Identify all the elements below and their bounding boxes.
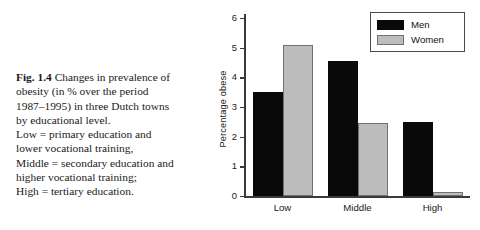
y-axis-tick — [240, 196, 245, 197]
caption-line: lower vocational training, — [16, 141, 204, 155]
legend-item-women: Women — [377, 32, 458, 47]
figure-caption: Fig. 1.4 Changes in prevalence of obesit… — [16, 70, 204, 199]
bar-middle-women — [358, 123, 388, 196]
caption-line: Changes in prevalence of — [55, 71, 170, 83]
legend-label-women: Women — [411, 35, 444, 45]
y-axis-tick-label: 1 — [223, 161, 237, 170]
y-axis-tick-label: 3 — [223, 102, 237, 111]
legend-label-men: Men — [411, 20, 430, 30]
y-axis-tick — [240, 48, 245, 49]
caption-line: by educational level. — [16, 113, 204, 127]
caption-line: High = tertiary education. — [16, 184, 204, 198]
bar-chart: Percentage obese 0123456 LowMiddleHigh M… — [205, 0, 480, 230]
x-axis-label-high: High — [395, 202, 470, 213]
y-axis-tick-label: 4 — [223, 72, 237, 81]
y-axis-tick — [240, 107, 245, 108]
y-axis-tick — [240, 137, 245, 138]
y-axis-tick-label: 0 — [223, 191, 237, 200]
legend-swatch-men — [377, 20, 404, 30]
bar-middle-men — [328, 61, 358, 196]
caption-line: 1987–1995) in three Dutch towns — [16, 99, 204, 113]
caption-line: obesity (in % over the period — [16, 84, 204, 98]
y-axis-tick-label: 5 — [223, 43, 237, 52]
y-axis-tick — [240, 18, 245, 19]
x-axis-label-middle: Middle — [320, 202, 395, 213]
figure-number: Fig. 1.4 — [16, 71, 52, 83]
y-axis-line — [244, 14, 246, 196]
figure-page: { "caption": { "figure_label": "Fig. 1.4… — [0, 0, 480, 230]
x-axis-line — [244, 196, 470, 198]
legend-swatch-women — [377, 35, 404, 45]
bar-low-men — [253, 92, 283, 196]
y-axis-tick-label: 2 — [223, 132, 237, 141]
y-axis-tick-label: 6 — [223, 13, 237, 22]
bar-high-women — [433, 192, 463, 196]
caption-line: Low = primary education and — [16, 127, 204, 141]
bar-low-women — [283, 45, 313, 196]
legend-item-men: Men — [377, 17, 458, 32]
y-axis-tick — [240, 166, 245, 167]
bar-high-men — [403, 122, 433, 196]
caption-line: Middle = secondary education and — [16, 156, 204, 170]
caption-line: higher vocational training; — [16, 170, 204, 184]
y-axis-tick — [240, 77, 245, 78]
x-axis-label-low: Low — [245, 202, 320, 213]
chart-legend: Men Women — [370, 12, 465, 52]
